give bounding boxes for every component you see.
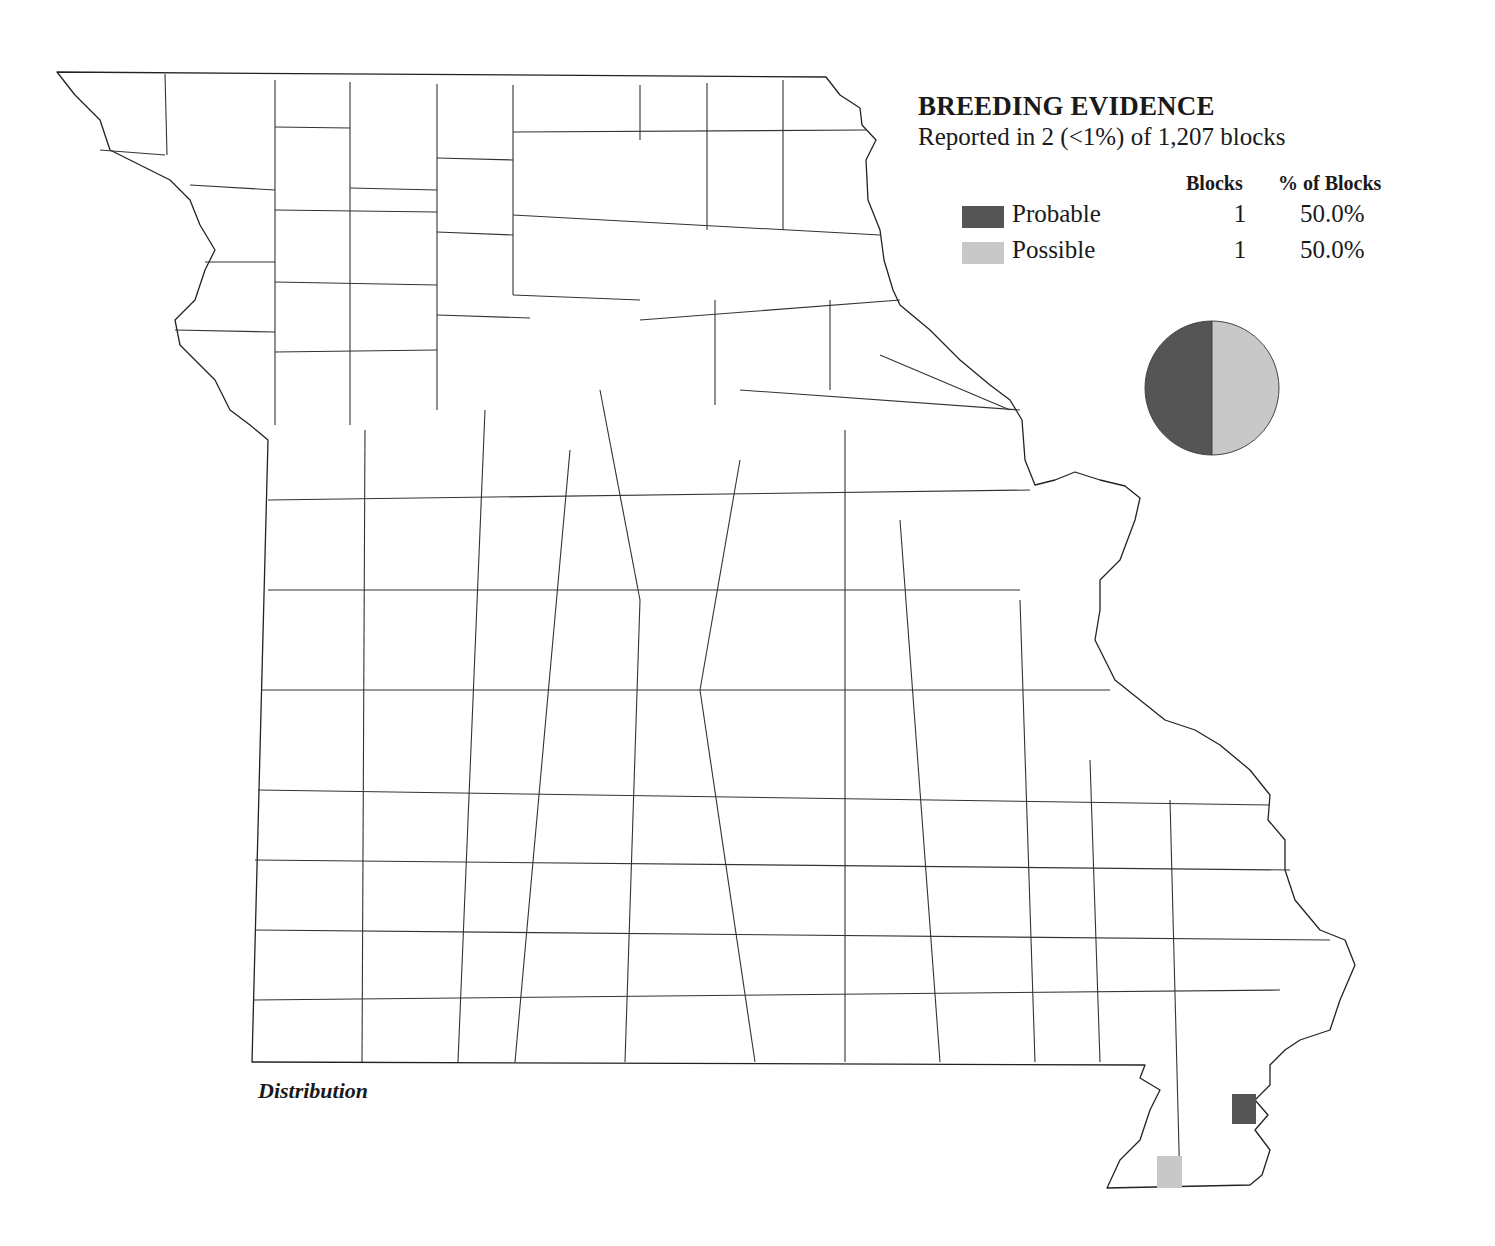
possible-swatch [962,242,1004,264]
legend-pct: 50.0% [1300,236,1365,264]
possible-block [1157,1156,1182,1188]
legend-title: BREEDING EVIDENCE [918,90,1438,122]
pie-slice-possible [1212,321,1279,455]
probable-swatch [962,206,1004,228]
probable-block [1232,1094,1256,1124]
legend-blocks: 1 [1230,236,1250,264]
county-borders [100,74,1330,1188]
col-pct-header: % of Blocks [1278,172,1381,195]
legend-pct: 50.0% [1300,200,1365,228]
pie-chart [1142,318,1282,458]
legend-label: Probable [1012,200,1101,228]
state-outline [57,72,1355,1188]
legend: BREEDING EVIDENCE Reported in 2 (<1%) of… [918,90,1438,152]
col-blocks-header: Blocks [1186,172,1243,195]
legend-subtitle: Reported in 2 (<1%) of 1,207 blocks [918,122,1438,152]
legend-blocks: 1 [1230,200,1250,228]
pie-slice-probable [1145,321,1212,455]
county-map [0,0,1495,1246]
legend-label: Possible [1012,236,1095,264]
distribution-label: Distribution [258,1078,368,1104]
